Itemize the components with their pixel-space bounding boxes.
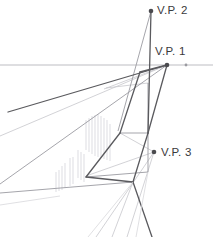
vanishing-point-1-dot[interactable] (165, 63, 170, 68)
heavy-object-lines (8, 11, 167, 237)
vanishing-point-3-dot[interactable] (152, 150, 157, 155)
vanishing-point-2-label: V.P. 2 (157, 5, 188, 17)
vanishing-point-3-label: V.P. 3 (161, 147, 192, 159)
perspective-drawing-canvas: V.P. 2 V.P. 1 V.P. 3 (0, 0, 213, 237)
vanishing-point-1-label: V.P. 1 (155, 46, 186, 58)
perspective-construction-diagram (0, 0, 213, 237)
horizon-tick-dot (185, 64, 188, 67)
ground-hatching (56, 114, 110, 192)
vanishing-point-2-dot[interactable] (149, 9, 154, 14)
medium-construction-lines (0, 11, 167, 193)
